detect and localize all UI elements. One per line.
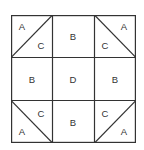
label-c: C [38, 108, 45, 119]
quilt-block-grid: A C B C A B D B C A B C A [11, 15, 136, 143]
label-b: B [112, 74, 118, 85]
label-d: D [70, 74, 77, 85]
label-c: C [102, 108, 109, 119]
label-a: A [121, 21, 127, 32]
label-a: A [121, 126, 127, 137]
label-b: B [29, 74, 35, 85]
label-b: B [70, 31, 76, 42]
label-c: C [102, 40, 109, 51]
label-c: C [38, 40, 45, 51]
label-a: A [19, 126, 25, 137]
label-b: B [70, 117, 76, 128]
label-a: A [19, 21, 25, 32]
